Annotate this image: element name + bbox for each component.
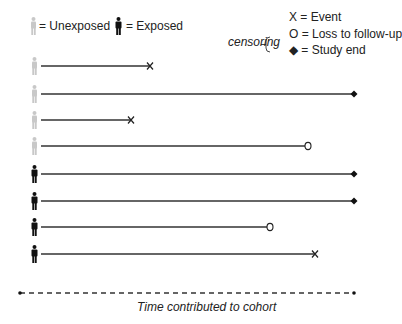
time-axis-start-dot [18, 291, 22, 295]
loss-circle-marker [305, 142, 311, 149]
participant-row [32, 85, 358, 103]
exposed-person-icon [32, 245, 38, 263]
study-end-diamond-marker [351, 171, 358, 178]
exposed-legend-label: = Exposed [126, 19, 183, 33]
loss-circle-marker [267, 223, 273, 230]
unexposed-legend-label: = Unexposed [39, 19, 110, 33]
participant-row [32, 57, 153, 75]
participant-row [32, 218, 274, 236]
exposed-person-icon [116, 17, 122, 35]
study-end-legend-label: ◆ = Study end [289, 43, 366, 57]
time-axis-end-dot [352, 291, 356, 295]
time-axis-label: Time contributed to cohort [137, 300, 276, 314]
unexposed-person-icon [32, 111, 37, 129]
exposed-person-icon [32, 218, 38, 236]
participant-row [32, 137, 311, 155]
event-legend-label: X = Event [289, 10, 341, 24]
exposed-person-icon [32, 165, 38, 183]
unexposed-person-icon [31, 17, 36, 35]
participant-row [32, 111, 134, 129]
unexposed-person-icon [32, 85, 37, 103]
study-end-diamond-marker [351, 91, 358, 98]
censoring-legend-label: censoring [228, 35, 280, 49]
unexposed-person-icon [32, 57, 37, 75]
participant-row [32, 245, 319, 263]
unexposed-person-icon [32, 137, 37, 155]
exposed-person-icon [32, 192, 38, 210]
study-end-diamond-marker [351, 198, 358, 205]
participant-row [32, 165, 358, 183]
participant-row [32, 192, 358, 210]
loss-legend-label: O = Loss to follow-up [289, 27, 402, 41]
